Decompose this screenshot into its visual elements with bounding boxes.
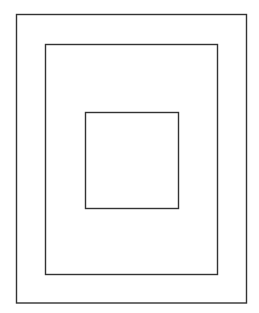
middle-rectangle bbox=[46, 45, 218, 275]
inner-square bbox=[86, 113, 179, 209]
outer-rectangle bbox=[17, 15, 247, 304]
nested-rectangles-diagram bbox=[0, 0, 259, 313]
